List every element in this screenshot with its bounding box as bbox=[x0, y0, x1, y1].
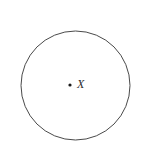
center-point-label: X bbox=[77, 78, 84, 90]
center-point-dot bbox=[68, 83, 71, 86]
circle-diagram-svg bbox=[0, 0, 149, 155]
geometry-figure-canvas: X bbox=[0, 0, 149, 155]
circle-outline bbox=[21, 31, 130, 140]
